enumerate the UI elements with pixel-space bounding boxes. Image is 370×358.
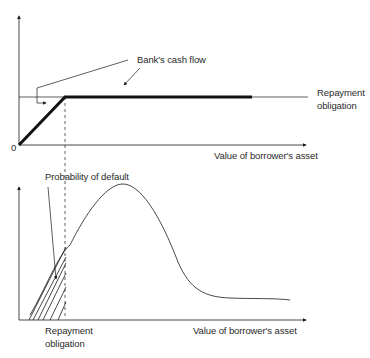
bottom-x-axis-label: Value of borrower's asset — [193, 325, 297, 337]
top-repayment-label-line1: Repayment — [317, 87, 365, 99]
cash-flow-pointer-arrow — [124, 68, 140, 85]
origin-label: 0 — [11, 142, 16, 154]
bank-cash-flow-line — [19, 97, 252, 145]
probability-of-default-label: Probability of default — [45, 171, 129, 183]
bottom-panel — [19, 184, 306, 320]
probability-pointer-arrow — [48, 187, 56, 279]
bank-cash-flow-label: Bank's cash flow — [137, 54, 206, 66]
bottom-repayment-label-line1: Repayment — [45, 325, 93, 337]
bottom-repayment-label-line2: obligation — [45, 338, 85, 350]
asset-value-distribution-curve — [30, 184, 290, 315]
top-panel — [19, 16, 308, 145]
top-x-axis-label: Value of borrower's asset — [214, 150, 318, 162]
default-probability-hatching — [29, 247, 66, 320]
top-repayment-label-line2: obligation — [317, 100, 357, 112]
